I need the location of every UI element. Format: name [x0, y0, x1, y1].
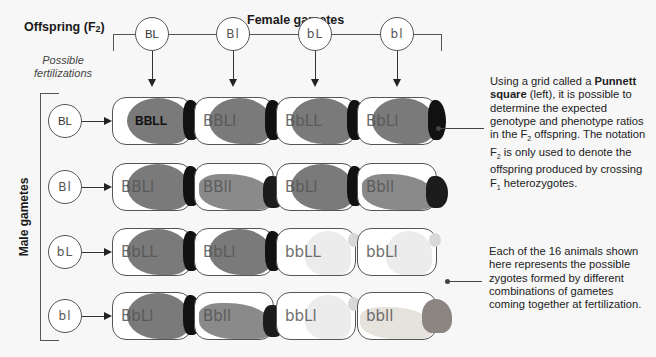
punnett-cell-bbLl: bbLl	[276, 292, 356, 340]
punnett-cell-bbll: bbll	[357, 292, 437, 340]
punnett-cell-BBll: BBll	[194, 163, 274, 211]
male-gamete-bL: bL	[48, 235, 82, 269]
punnett-cell-BbLl: BbLl	[357, 97, 437, 145]
figure-title: Offspring (F2)	[24, 20, 105, 34]
possible-fertilizations-label: Possible fertilizations	[18, 54, 108, 80]
male-gametes-label: Male gametes	[17, 157, 31, 277]
genotype-label: BbLl	[203, 243, 235, 261]
punnett-cell-BBLl: BBLl	[112, 163, 192, 211]
male-gamete-Bl: Bl	[48, 170, 82, 204]
female-gamete-Bl: Bl	[216, 17, 250, 51]
genotype-label: BbLl	[285, 178, 317, 196]
genotype-label: Bbll	[203, 307, 231, 325]
genotype-label: BBLl	[203, 112, 236, 130]
arrow-down-icon	[233, 51, 234, 85]
genotype-label: BBLl	[121, 178, 154, 196]
arrow-right-icon	[82, 121, 110, 122]
male-gamete-bl: bl	[48, 299, 82, 333]
arrow-down-icon	[315, 51, 316, 85]
genotype-label: Bbll	[366, 178, 394, 196]
zygotes-description: Each of the 16 animals shown here repres…	[489, 245, 649, 311]
genotype-label: bbLl	[366, 243, 398, 261]
arrow-right-icon	[82, 316, 110, 317]
annotation-pointer-line	[438, 128, 484, 129]
punnett-cell-BbLl: BbLl	[276, 163, 356, 211]
genotype-label: bbLl	[285, 307, 317, 325]
arrow-right-icon	[82, 252, 110, 253]
genotype-label: BBll	[203, 178, 232, 196]
genotype-label: BbLL	[121, 243, 158, 261]
punnett-cell-Bbll: Bbll	[357, 163, 437, 211]
punnett-cell-BbLl: BbLl	[194, 228, 274, 276]
punnett-cell-BBLL: BBLL	[112, 97, 192, 145]
punnett-cell-BbLl: BbLl	[112, 292, 192, 340]
arrow-down-icon	[152, 51, 153, 85]
punnett-cell-BbLL: BbLL	[112, 228, 192, 276]
female-gamete-bL: bL	[298, 17, 332, 51]
genotype-label: BbLL	[285, 112, 322, 130]
punnett-cell-BbLL: BbLL	[276, 97, 356, 145]
female-gamete-bl: bl	[380, 17, 414, 51]
punnett-cell-BBLl: BBLl	[194, 97, 274, 145]
punnett-cell-Bbll: Bbll	[194, 292, 274, 340]
genotype-label: bbll	[366, 307, 393, 325]
arrow-right-icon	[82, 187, 110, 188]
punnett-cell-bbLL: bbLL	[276, 228, 356, 276]
genotype-label: BbLl	[121, 307, 153, 325]
annotation-pointer-line	[447, 281, 482, 282]
male-gamete-BL: BL	[48, 104, 82, 138]
female-gamete-BL: BL	[135, 17, 169, 51]
arrow-down-icon	[397, 51, 398, 85]
genotype-label: bbLL	[285, 243, 321, 261]
punnett-cell-bbLl: bbLl	[357, 228, 437, 276]
punnett-square-description: Using a grid called a Punnett square (le…	[490, 75, 650, 194]
genotype-label: BbLl	[366, 112, 398, 130]
genotype-label: BBLL	[135, 114, 167, 128]
